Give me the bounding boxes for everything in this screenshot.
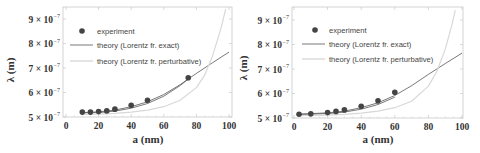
experiment-data-point <box>325 110 331 116</box>
y-tick-exponent: −7 <box>54 38 60 44</box>
x-axis-label: a (nm) <box>363 133 394 146</box>
y-tick-exponent: −7 <box>54 87 60 93</box>
experiment-data-point <box>80 109 86 115</box>
x-tick-label: 20 <box>94 121 104 131</box>
x-tick-label: 60 <box>390 122 400 132</box>
chart-canvas: 0204060801005 × 10−76 × 10−77 × 10−78 × … <box>0 0 480 153</box>
y-tick-exponent: −7 <box>283 39 289 45</box>
y-tick-label: 5 × 10 <box>29 113 54 123</box>
exact-theory-curve <box>82 79 188 113</box>
legend: experimenttheory (Lorentz fr. exact)theo… <box>302 26 434 64</box>
experiment-data-point <box>308 111 314 117</box>
legend-label: theory (Lorentz fr. perturbative) <box>97 57 202 66</box>
y-tick-label: 9 × 10 <box>258 16 283 26</box>
legend-label: experiment <box>329 26 367 35</box>
legend-label: experiment <box>97 27 135 36</box>
experiment-data-point <box>296 112 302 118</box>
y-tick-exponent: −7 <box>54 111 60 117</box>
x-tick-label: 60 <box>159 121 169 131</box>
experiment-data-point <box>88 109 94 115</box>
figure: 0204060801005 × 10−76 × 10−77 × 10−78 × … <box>0 0 480 153</box>
x-tick-label: 0 <box>64 121 69 131</box>
experiment-data-point <box>375 98 381 104</box>
legend-label: theory (Lorentz fr. exact) <box>97 41 180 50</box>
y-tick-exponent: −7 <box>283 63 289 69</box>
y-axis-label: λ (m) <box>4 57 17 82</box>
y-tick-label: 9 × 10 <box>29 15 54 25</box>
experiment-data-point <box>333 109 339 115</box>
legend: experimenttheory (Lorentz fr. exact)theo… <box>70 27 202 66</box>
x-tick-label: 80 <box>192 121 202 131</box>
x-tick-label: 100 <box>222 121 237 131</box>
experiment-data-point <box>358 103 364 109</box>
x-tick-label: 80 <box>424 122 434 132</box>
experiment-data-point <box>104 108 110 114</box>
experiment-data-point <box>96 109 102 115</box>
y-tick-label: 8 × 10 <box>29 39 54 49</box>
experiment-data-point <box>342 107 348 113</box>
experiment-data-point <box>392 89 398 95</box>
experiment-data-point <box>128 102 134 108</box>
y-tick-exponent: −7 <box>54 13 60 19</box>
legend-experiment-marker <box>79 28 85 34</box>
y-tick-label: 6 × 10 <box>29 88 54 98</box>
left-chart-panel: 0204060801005 × 10−76 × 10−77 × 10−78 × … <box>4 7 236 146</box>
y-tick-label: 7 × 10 <box>258 65 283 75</box>
y-tick-exponent: −7 <box>283 112 289 118</box>
y-axis-label: λ (m) <box>237 55 250 80</box>
legend-label: theory (Lorentz fr. exact) <box>329 40 412 49</box>
y-tick-label: 5 × 10 <box>258 114 283 124</box>
experiment-data-point <box>145 98 151 104</box>
y-tick-label: 6 × 10 <box>258 89 283 99</box>
x-tick-label: 40 <box>126 121 136 131</box>
y-tick-label: 8 × 10 <box>258 40 283 50</box>
experiment-data-point <box>112 106 118 112</box>
y-tick-exponent: −7 <box>283 14 289 20</box>
legend-experiment-marker <box>312 27 318 33</box>
x-axis-label: a (nm) <box>133 133 164 146</box>
right-chart-panel: 0204060801005 × 10−76 × 10−77 × 10−78 × … <box>237 7 469 146</box>
y-tick-exponent: −7 <box>283 88 289 94</box>
x-tick-label: 100 <box>455 122 470 132</box>
legend-label: theory (Lorentz fr. perturbative) <box>329 55 434 64</box>
x-tick-label: 20 <box>323 122 333 132</box>
x-tick-label: 0 <box>292 122 297 132</box>
y-tick-exponent: −7 <box>54 62 60 68</box>
x-tick-label: 40 <box>356 122 366 132</box>
y-tick-label: 7 × 10 <box>29 64 54 74</box>
experiment-data-point <box>185 75 191 81</box>
